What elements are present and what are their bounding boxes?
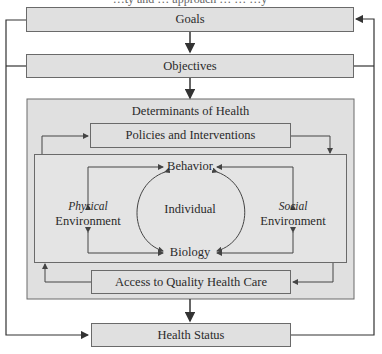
goals-box: Goals — [26, 7, 354, 32]
objectives-box: Objectives — [26, 54, 354, 78]
behavior-label: Behavior — [160, 159, 220, 174]
determinants-title: Determinants of Health — [27, 104, 354, 119]
access-label: Access to Quality Health Care — [115, 275, 267, 290]
objectives-label: Objectives — [163, 59, 216, 74]
biology-label: Biology — [160, 245, 220, 260]
policies-label: Policies and Interventions — [126, 128, 256, 143]
access-box: Access to Quality Health Care — [91, 270, 291, 294]
policies-box: Policies and Interventions — [90, 123, 291, 148]
health-status-label: Health Status — [157, 328, 224, 343]
social-italic-label: Social — [253, 200, 333, 212]
goals-label: Goals — [175, 12, 204, 27]
physical-italic-label: Physical — [48, 200, 128, 212]
health-status-box: Health Status — [91, 323, 291, 347]
physical-environment-label: Environment — [48, 214, 128, 229]
social-environment-label: Environment — [253, 214, 333, 229]
individual-label: Individual — [150, 202, 230, 217]
